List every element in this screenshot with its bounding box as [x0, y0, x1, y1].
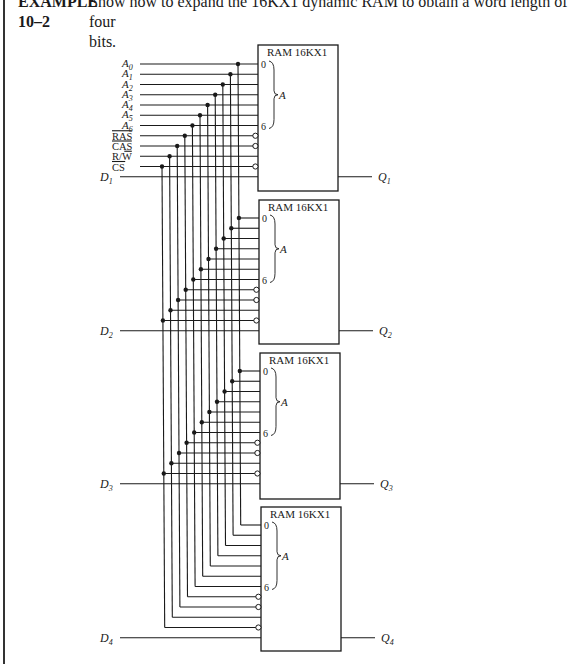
bus-line-A3	[215, 95, 218, 556]
bus-line-A4	[208, 105, 211, 566]
inversion-bubble	[255, 471, 260, 476]
inversion-bubble	[253, 133, 258, 138]
ram-chip-title: RAM 16KX1	[270, 508, 330, 520]
data-in-label: D4	[99, 631, 113, 647]
bus-line-CS	[162, 167, 165, 628]
data-out-label: Q3	[380, 477, 393, 493]
address-brace	[270, 215, 279, 283]
data-out-label: Q4	[381, 631, 394, 647]
inversion-bubble	[254, 287, 259, 292]
input-label-CS: CS	[112, 162, 125, 173]
inversion-bubble	[256, 604, 261, 609]
addr-last-label: 6	[263, 428, 268, 439]
bus-line-RAS	[185, 136, 188, 597]
ram-chip-2: RAM 16KX106A	[259, 200, 339, 344]
bus-line-A5	[200, 115, 203, 576]
data-in-label: D3	[99, 477, 113, 493]
data-in-label: D1	[99, 170, 113, 186]
bus-line-A6	[192, 126, 195, 587]
addr-first-label: 0	[262, 213, 267, 224]
ram-expansion-diagram: RAM 16KX106AD1Q1RAM 16KX106AD2Q2RAM 16KX…	[0, 0, 575, 664]
ram-chip-box	[261, 507, 341, 651]
inversion-bubble	[254, 297, 259, 302]
ram-chip-box	[259, 200, 339, 344]
addr-first-label: 0	[261, 59, 266, 70]
address-brace	[271, 368, 280, 436]
address-brace	[269, 61, 278, 129]
ram-chip-1: RAM 16KX106A	[258, 45, 338, 191]
ram-chip-4: RAM 16KX106A	[261, 507, 341, 651]
address-brace	[272, 522, 281, 590]
ram-chip-title: RAM 16KX1	[267, 46, 327, 58]
bus-line-R/W	[170, 156, 173, 617]
addr-first-label: 0	[263, 366, 268, 377]
ram-chip-title: RAM 16KX1	[268, 201, 328, 213]
ram-chip-3: RAM 16KX106A	[260, 353, 340, 499]
inversion-bubble	[253, 143, 258, 148]
bus-line-A0	[238, 64, 241, 525]
data-out-label: Q2	[379, 324, 392, 340]
ram-chip-box	[258, 45, 338, 191]
bus-line-A2	[223, 85, 226, 546]
bus-line-A1	[230, 74, 233, 535]
ram-chip-box	[260, 353, 340, 499]
addr-last-label: 6	[264, 582, 269, 593]
addr-last-label: 6	[262, 275, 267, 286]
addr-last-label: 6	[261, 121, 266, 132]
inversion-bubble	[254, 318, 259, 323]
inversion-bubble	[255, 440, 260, 445]
inversion-bubble	[256, 594, 261, 599]
address-group-label: A	[280, 396, 288, 408]
inversion-bubble	[256, 625, 261, 630]
inversion-bubble	[255, 450, 260, 455]
bus-line-CAS	[177, 146, 180, 607]
address-group-label: A	[279, 243, 287, 255]
data-out-label: Q1	[378, 170, 391, 186]
address-group-label: A	[281, 550, 289, 562]
inversion-bubble	[253, 164, 258, 169]
data-in-label: D2	[99, 324, 113, 340]
addr-first-label: 0	[264, 520, 269, 531]
ram-chip-title: RAM 16KX1	[269, 354, 329, 366]
address-group-label: A	[278, 89, 286, 101]
